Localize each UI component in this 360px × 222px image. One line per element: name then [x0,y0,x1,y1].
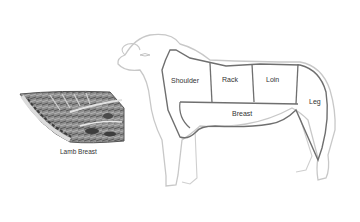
cut-label-leg: Leg [309,98,321,105]
cut-label-breast: Breast [232,110,252,117]
inset-caption: Lamb Breast [60,148,97,155]
lamb-cuts-diagram: Shoulder Rack Loin Breast Leg Lamb Breas… [0,0,360,222]
lamb-outline-svg [0,0,360,222]
cut-label-loin: Loin [266,76,279,83]
cut-label-shoulder: Shoulder [171,77,199,84]
cut-label-rack: Rack [222,76,238,83]
